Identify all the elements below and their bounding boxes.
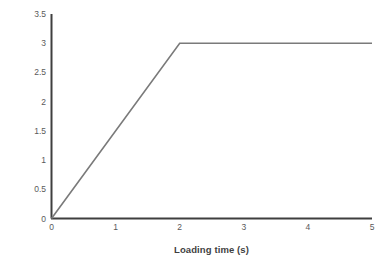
data-series-group xyxy=(52,43,373,218)
x-axis-title: Loading time (s) xyxy=(51,244,372,255)
x-axis-tick-label: 3 xyxy=(229,222,259,232)
pressure-vs-loading-time-chart: Pressure (MPa) 00.511.522.533.5 012345 L… xyxy=(0,0,387,267)
x-axis-tick-label: 4 xyxy=(293,222,323,232)
x-axis-tick-label: 1 xyxy=(101,222,131,232)
x-axis-tick-label: 2 xyxy=(165,222,195,232)
pressure-series-line xyxy=(52,43,373,218)
x-axis-tick-label: 5 xyxy=(357,222,387,232)
x-axis-tick-label: 0 xyxy=(37,222,67,232)
axes xyxy=(51,14,372,219)
